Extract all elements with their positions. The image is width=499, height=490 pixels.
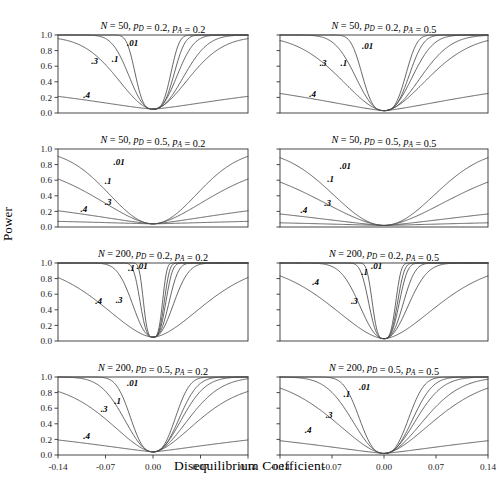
power-curve-multipanel: N = 50, pD = 0.2, pA = 0.20.00.20.40.60.… (0, 0, 499, 490)
panel-title: N = 200, pD = 0.5, pA = 0.5 (328, 362, 439, 377)
curve-label: .01 (362, 41, 373, 51)
curve-label: .3 (320, 58, 327, 68)
power-curve (58, 391, 248, 451)
power-curve-extra (153, 379, 248, 452)
y-tick-label: 0.4 (41, 191, 53, 201)
y-tick-label: 0.6 (41, 403, 53, 413)
curve-label: .1 (114, 396, 121, 406)
power-curve (280, 182, 488, 225)
y-tick-label: 0.6 (41, 289, 53, 299)
curve-label: .01 (137, 261, 148, 271)
panel-frame (280, 149, 488, 227)
y-tick-label: 1.0 (41, 30, 53, 40)
y-tick-label: 0.4 (41, 305, 53, 315)
panel-frame (280, 263, 488, 341)
power-curve (58, 179, 248, 224)
panel-frame (280, 35, 488, 113)
power-curve-extra (153, 263, 248, 337)
curve-label: .01 (359, 382, 370, 392)
y-tick-label: 0.8 (41, 46, 53, 56)
curve-label: .1 (105, 176, 112, 186)
y-tick-label: 0.2 (41, 435, 53, 445)
y-tick-label: 0.0 (41, 336, 53, 346)
y-tick-label: 1.0 (41, 258, 53, 268)
curve-label: .3 (101, 404, 108, 414)
power-curve (280, 263, 488, 339)
curve-label: .3 (116, 295, 123, 305)
curve-label: .3 (91, 56, 98, 66)
panel-3: N = 50, pD = 0.5, pA = 0.5.01.1.3.4 (277, 134, 489, 227)
panel-2: N = 50, pD = 0.5, pA = 0.20.00.20.40.60.… (41, 134, 248, 232)
panel-6: N = 200, pD = 0.5, pA = 0.20.00.20.40.60… (41, 362, 257, 472)
y-tick-label: 0.0 (41, 222, 53, 232)
power-curve (280, 276, 488, 339)
panel-frame (58, 149, 248, 227)
power-curve (58, 278, 248, 338)
power-curve (280, 388, 488, 453)
y-tick-label: 1.0 (41, 144, 53, 154)
y-tick-label: 0.4 (41, 419, 53, 429)
y-tick-label: 0.8 (41, 388, 53, 398)
x-axis-label: Disequilibrium Coefficient (0, 458, 499, 474)
y-tick-label: 0.2 (41, 93, 53, 103)
curve-label: .4 (300, 205, 307, 215)
y-tick-label: 1.0 (41, 372, 53, 382)
power-curve-extra (153, 263, 248, 337)
panel-title: N = 50, pD = 0.5, pA = 0.5 (331, 134, 437, 149)
power-curve (280, 263, 488, 339)
curve-label: .1 (343, 389, 350, 399)
power-curve-extra (384, 377, 488, 453)
curve-label: .4 (312, 277, 319, 287)
curve-label: .4 (309, 89, 316, 99)
y-tick-label: 0.6 (41, 61, 53, 71)
panel-1: N = 50, pD = 0.2, pA = 0.5.01.1.3.4 (277, 20, 489, 113)
curve-label: .1 (327, 174, 334, 184)
curve-label: .01 (340, 161, 351, 171)
panel-0: N = 50, pD = 0.2, pA = 0.20.00.20.40.60.… (41, 20, 248, 118)
curve-label: .01 (113, 157, 124, 167)
y-tick-label: 0.6 (41, 175, 53, 185)
curve-label: .3 (105, 197, 112, 207)
panel-frame (58, 35, 248, 113)
curve-label: .01 (371, 261, 382, 271)
power-curve (280, 377, 488, 453)
y-tick-label: 0.8 (41, 160, 53, 170)
y-tick-label: 0.0 (41, 108, 53, 118)
curve-label: .3 (324, 198, 331, 208)
curve-label: .1 (112, 54, 119, 64)
power-curve (280, 263, 488, 339)
y-tick-label: 0.4 (41, 77, 53, 87)
curve-label: .1 (341, 58, 348, 68)
panel-frame (58, 263, 248, 341)
curve-label: .1 (128, 263, 135, 273)
curve-label: .4 (80, 204, 87, 214)
power-curve (280, 158, 488, 226)
panel-frame (280, 377, 488, 455)
power-curve (58, 221, 248, 224)
panel-title: N = 50, pD = 0.2, pA = 0.2 (100, 20, 206, 35)
power-curve (280, 441, 488, 454)
power-curve (58, 263, 248, 337)
power-curve-extra (384, 35, 488, 111)
panel-7: N = 200, pD = 0.5, pA = 0.5-0.14-0.070.0… (270, 362, 496, 472)
curve-label: .3 (326, 410, 333, 420)
panel-title: N = 200, pD = 0.2, pA = 0.2 (97, 248, 208, 263)
power-curve-extra (153, 377, 248, 452)
panel-title: N = 200, pD = 0.2, pA = 0.5 (328, 248, 439, 263)
curve-label: .1 (361, 267, 368, 277)
power-curve (280, 377, 488, 453)
power-curve (280, 223, 488, 226)
panel-title: N = 50, pD = 0.2, pA = 0.5 (331, 20, 437, 35)
panel-title: N = 200, pD = 0.5, pA = 0.2 (97, 362, 208, 377)
power-curve (58, 263, 248, 337)
power-curve (58, 263, 248, 337)
curve-label: .4 (95, 296, 102, 306)
curve-label: .4 (83, 90, 90, 100)
y-tick-label: 0.2 (41, 321, 53, 331)
panel-5: N = 200, pD = 0.2, pA = 0.5.01.1.3.4 (277, 248, 489, 341)
power-curve (58, 440, 248, 452)
y-axis-label: Power (0, 194, 16, 254)
panel-title: N = 50, pD = 0.5, pA = 0.2 (100, 134, 206, 149)
curve-label: .3 (351, 296, 358, 306)
panel-4: N = 200, pD = 0.2, pA = 0.20.00.20.40.60… (41, 248, 248, 346)
